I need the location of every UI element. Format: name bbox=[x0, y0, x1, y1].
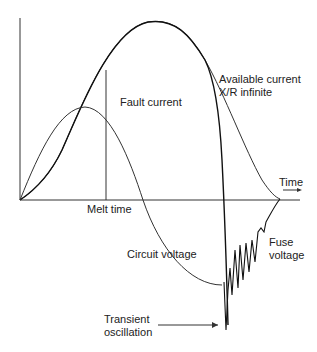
available-current-line2: X/R infinite bbox=[219, 86, 301, 99]
fuse-voltage-label: Fuse voltage bbox=[269, 236, 304, 262]
fuse-voltage-line2: voltage bbox=[269, 249, 304, 262]
fault-current-curve bbox=[20, 21, 228, 325]
available-current-label: Available current X/R infinite bbox=[219, 73, 301, 99]
circuit-voltage-label: Circuit voltage bbox=[127, 248, 197, 261]
transient-oscillation-label: Transient oscillation bbox=[104, 313, 152, 339]
available-current-line1: Available current bbox=[219, 73, 301, 86]
available-current-curve bbox=[20, 21, 280, 200]
fault-current-label: Fault current bbox=[120, 96, 182, 109]
time-label: Time bbox=[279, 176, 303, 189]
fuse-voltage-curve bbox=[224, 199, 280, 330]
melt-time-label: Melt time bbox=[87, 203, 132, 216]
transient-line2: oscillation bbox=[104, 326, 152, 339]
transient-line1: Transient bbox=[104, 313, 152, 326]
fuse-voltage-line1: Fuse bbox=[269, 236, 304, 249]
fuse-fault-diagram bbox=[0, 0, 317, 352]
transient-arrow-head-icon bbox=[212, 322, 218, 328]
